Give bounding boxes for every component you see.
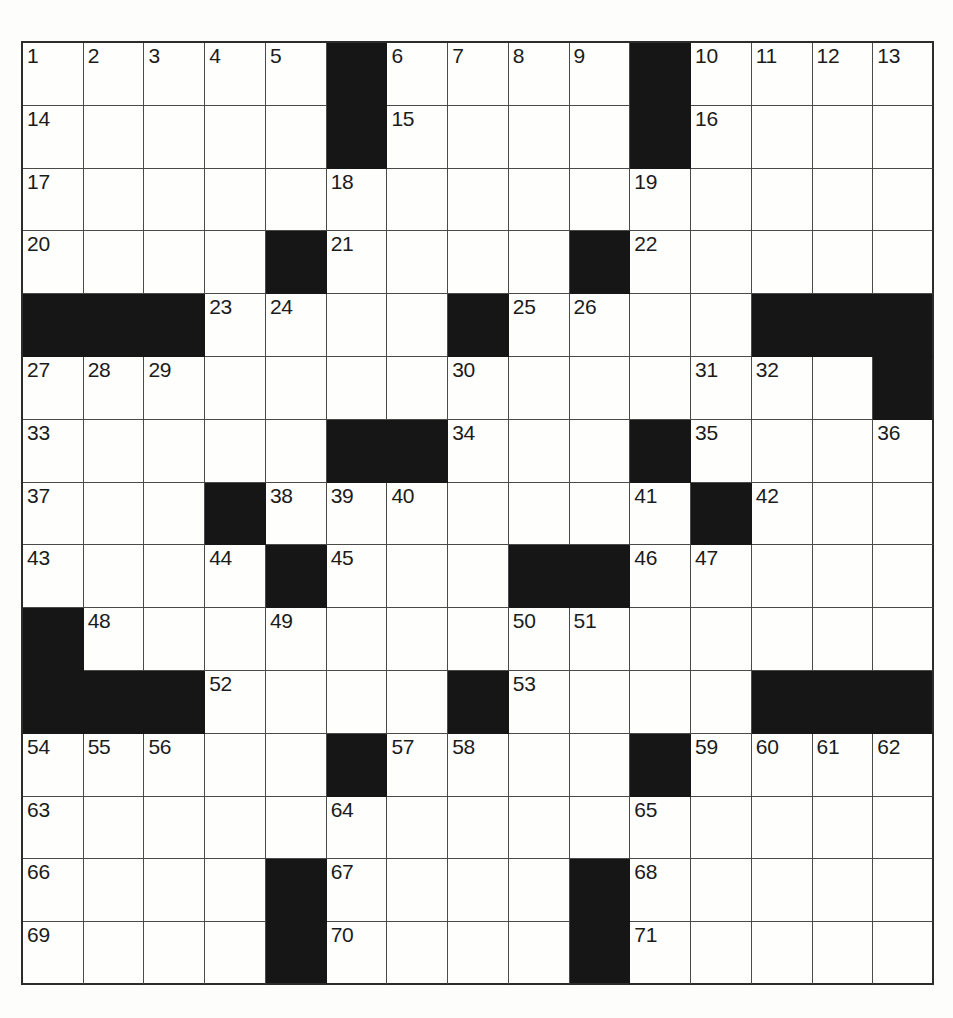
crossword-open-cell[interactable] — [752, 859, 813, 922]
crossword-open-cell[interactable] — [630, 608, 691, 671]
crossword-open-cell[interactable] — [813, 483, 874, 546]
crossword-open-cell[interactable] — [873, 231, 934, 294]
crossword-open-cell[interactable] — [144, 420, 205, 483]
crossword-open-cell[interactable] — [327, 671, 388, 734]
crossword-open-cell[interactable] — [873, 545, 934, 608]
crossword-open-cell[interactable] — [448, 859, 509, 922]
crossword-open-cell[interactable] — [266, 357, 327, 420]
crossword-open-cell[interactable] — [752, 231, 813, 294]
crossword-open-cell[interactable] — [570, 797, 631, 860]
crossword-open-cell[interactable] — [327, 294, 388, 357]
crossword-open-cell[interactable]: 39 — [327, 483, 388, 546]
crossword-open-cell[interactable] — [84, 922, 145, 985]
crossword-open-cell[interactable] — [144, 608, 205, 671]
crossword-open-cell[interactable] — [752, 608, 813, 671]
crossword-open-cell[interactable]: 70 — [327, 922, 388, 985]
crossword-open-cell[interactable] — [387, 608, 448, 671]
crossword-open-cell[interactable] — [570, 169, 631, 232]
crossword-open-cell[interactable] — [509, 797, 570, 860]
crossword-open-cell[interactable] — [205, 797, 266, 860]
crossword-open-cell[interactable]: 44 — [205, 545, 266, 608]
crossword-open-cell[interactable] — [84, 483, 145, 546]
crossword-open-cell[interactable]: 25 — [509, 294, 570, 357]
crossword-open-cell[interactable] — [387, 169, 448, 232]
crossword-open-cell[interactable] — [144, 169, 205, 232]
crossword-open-cell[interactable]: 49 — [266, 608, 327, 671]
crossword-grid[interactable]: 1234567891011121314151617181920212223242… — [21, 41, 934, 985]
crossword-open-cell[interactable]: 61 — [813, 734, 874, 797]
crossword-open-cell[interactable] — [873, 608, 934, 671]
crossword-open-cell[interactable] — [387, 294, 448, 357]
crossword-open-cell[interactable] — [813, 231, 874, 294]
crossword-open-cell[interactable]: 33 — [23, 420, 84, 483]
crossword-open-cell[interactable] — [752, 797, 813, 860]
crossword-open-cell[interactable] — [509, 420, 570, 483]
crossword-open-cell[interactable] — [266, 734, 327, 797]
crossword-open-cell[interactable] — [84, 106, 145, 169]
crossword-open-cell[interactable] — [448, 922, 509, 985]
crossword-open-cell[interactable]: 43 — [23, 545, 84, 608]
crossword-open-cell[interactable] — [448, 106, 509, 169]
crossword-open-cell[interactable] — [448, 231, 509, 294]
crossword-open-cell[interactable] — [448, 608, 509, 671]
crossword-open-cell[interactable]: 52 — [205, 671, 266, 734]
crossword-open-cell[interactable] — [144, 483, 205, 546]
crossword-open-cell[interactable] — [873, 859, 934, 922]
crossword-open-cell[interactable] — [84, 420, 145, 483]
crossword-open-cell[interactable]: 15 — [387, 106, 448, 169]
crossword-open-cell[interactable] — [387, 231, 448, 294]
crossword-open-cell[interactable] — [205, 357, 266, 420]
crossword-open-cell[interactable] — [266, 106, 327, 169]
crossword-open-cell[interactable]: 36 — [873, 420, 934, 483]
crossword-open-cell[interactable]: 17 — [23, 169, 84, 232]
crossword-open-cell[interactable] — [144, 922, 205, 985]
crossword-open-cell[interactable] — [752, 922, 813, 985]
crossword-open-cell[interactable] — [691, 859, 752, 922]
crossword-open-cell[interactable] — [509, 169, 570, 232]
crossword-open-cell[interactable] — [205, 859, 266, 922]
crossword-open-cell[interactable] — [691, 671, 752, 734]
crossword-open-cell[interactable]: 66 — [23, 859, 84, 922]
crossword-open-cell[interactable]: 22 — [630, 231, 691, 294]
crossword-open-cell[interactable]: 50 — [509, 608, 570, 671]
crossword-open-cell[interactable] — [327, 608, 388, 671]
crossword-open-cell[interactable] — [813, 106, 874, 169]
crossword-open-cell[interactable]: 41 — [630, 483, 691, 546]
crossword-open-cell[interactable]: 27 — [23, 357, 84, 420]
crossword-open-cell[interactable] — [387, 671, 448, 734]
crossword-open-cell[interactable] — [691, 922, 752, 985]
crossword-open-cell[interactable] — [509, 357, 570, 420]
crossword-open-cell[interactable]: 60 — [752, 734, 813, 797]
crossword-open-cell[interactable]: 12 — [813, 43, 874, 106]
crossword-open-cell[interactable] — [144, 106, 205, 169]
crossword-open-cell[interactable] — [813, 545, 874, 608]
crossword-open-cell[interactable] — [509, 106, 570, 169]
crossword-open-cell[interactable]: 65 — [630, 797, 691, 860]
crossword-open-cell[interactable] — [691, 797, 752, 860]
crossword-open-cell[interactable] — [144, 859, 205, 922]
crossword-open-cell[interactable]: 38 — [266, 483, 327, 546]
crossword-open-cell[interactable]: 7 — [448, 43, 509, 106]
crossword-open-cell[interactable]: 34 — [448, 420, 509, 483]
crossword-open-cell[interactable] — [448, 169, 509, 232]
crossword-open-cell[interactable]: 9 — [570, 43, 631, 106]
crossword-open-cell[interactable] — [509, 859, 570, 922]
crossword-open-cell[interactable]: 5 — [266, 43, 327, 106]
crossword-open-cell[interactable] — [266, 420, 327, 483]
crossword-open-cell[interactable] — [144, 545, 205, 608]
crossword-open-cell[interactable]: 64 — [327, 797, 388, 860]
crossword-open-cell[interactable] — [448, 797, 509, 860]
crossword-open-cell[interactable] — [144, 797, 205, 860]
crossword-open-cell[interactable]: 31 — [691, 357, 752, 420]
crossword-open-cell[interactable] — [266, 671, 327, 734]
crossword-open-cell[interactable] — [205, 420, 266, 483]
crossword-open-cell[interactable]: 30 — [448, 357, 509, 420]
crossword-open-cell[interactable]: 46 — [630, 545, 691, 608]
crossword-open-cell[interactable] — [205, 169, 266, 232]
crossword-open-cell[interactable]: 69 — [23, 922, 84, 985]
crossword-open-cell[interactable] — [630, 294, 691, 357]
crossword-open-cell[interactable]: 53 — [509, 671, 570, 734]
crossword-open-cell[interactable]: 29 — [144, 357, 205, 420]
crossword-open-cell[interactable]: 71 — [630, 922, 691, 985]
crossword-open-cell[interactable] — [84, 169, 145, 232]
